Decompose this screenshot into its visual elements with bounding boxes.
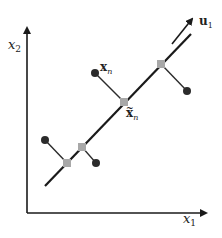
data-point xyxy=(183,87,191,95)
projected-point xyxy=(78,143,86,151)
data-point xyxy=(92,159,100,167)
u1-direction-arrow xyxy=(172,19,192,44)
projected-point xyxy=(157,60,165,68)
projection-segment xyxy=(161,64,187,91)
data-point xyxy=(41,136,49,144)
projection-segment xyxy=(95,73,124,102)
u1-label: u1 xyxy=(199,14,213,30)
data-points xyxy=(41,69,191,167)
xn-tilde-label: xn xyxy=(126,106,138,122)
projected-point xyxy=(63,159,71,167)
data-point-xn xyxy=(91,69,99,77)
y-axis-label: x2 xyxy=(8,37,21,54)
xn-label: xn xyxy=(100,60,112,76)
pca-diagram: x2 x1 u1 xn ~ xn xyxy=(0,0,222,238)
